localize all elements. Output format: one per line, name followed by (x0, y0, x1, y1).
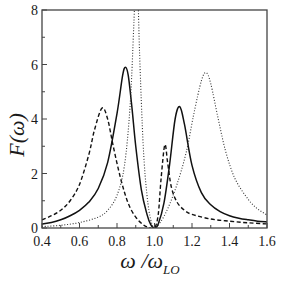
x-tick-label: 1.0 (146, 234, 164, 249)
resonance-line-chart: 0.40.60.81.01.21.41.6 02468 F(ω) ω /ωLO (0, 0, 283, 283)
x-axis-title-subscript: LO (162, 262, 180, 277)
y-tick-label: 8 (31, 3, 38, 18)
series-dotted (42, 0, 267, 228)
series-solid (42, 67, 267, 228)
x-tick-label: 1.4 (221, 234, 239, 249)
series-layer (42, 0, 267, 229)
x-tick-label: 1.2 (183, 234, 201, 249)
y-axis-tick-labels: 02468 (31, 3, 38, 236)
y-tick-label: 0 (31, 221, 38, 236)
x-tick-label: 0.4 (33, 234, 51, 249)
x-tick-label: 0.6 (71, 234, 89, 249)
y-tick-label: 6 (31, 58, 38, 73)
axis-ticks (42, 10, 267, 228)
y-tick-label: 4 (31, 112, 38, 127)
plot-frame (42, 10, 267, 228)
x-tick-label: 1.6 (258, 234, 276, 249)
x-axis-tick-labels: 0.40.60.81.01.21.41.6 (33, 234, 276, 249)
x-axis-title-main: ω /ω (120, 248, 163, 273)
y-tick-label: 2 (31, 167, 38, 182)
x-axis-title: ω /ωLO (120, 248, 180, 277)
y-axis-title: F(ω) (4, 113, 29, 158)
series-dashed (42, 108, 267, 229)
x-tick-label: 0.8 (108, 234, 126, 249)
